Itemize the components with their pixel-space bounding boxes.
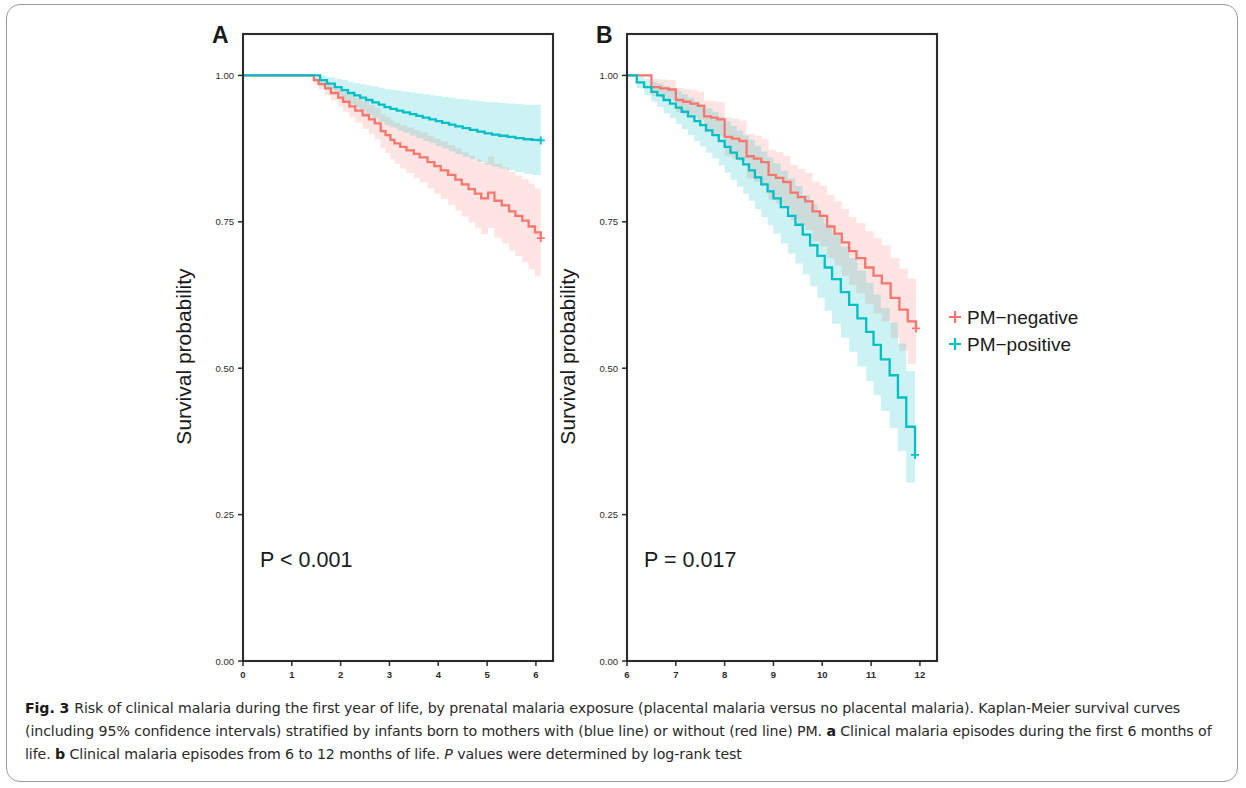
y-tick-label-2: 0.50 (600, 363, 619, 374)
caption-segment-2: a (826, 723, 835, 739)
caption-segment-0: Fig. 3 (25, 700, 74, 716)
caption-segment-6: P (444, 746, 452, 762)
panel-b: B67891011120.000.250.500.751.00Months to… (556, 22, 937, 689)
y-tick-label-2: 0.50 (216, 363, 235, 374)
p-value-panel-a: P < 0.001 (260, 548, 352, 572)
p-value-panel-b: P = 0.017 (644, 548, 736, 572)
x-axis-title-panel-b: Months to malaria (699, 686, 866, 689)
y-tick-label-3: 0.75 (216, 216, 235, 227)
x-tick-label-2: 8 (722, 669, 727, 680)
caption-segment-7: values were determined by log-rank test (453, 746, 742, 762)
y-axis-title-panel-b: Survival probability (556, 268, 579, 445)
caption-segment-4: b (55, 746, 65, 762)
panel-letter-b: B (596, 22, 613, 48)
x-tick-label-4: 4 (436, 669, 442, 680)
legend-label-0: PM−negative (967, 307, 1078, 328)
x-axis-title-panel-a: Months to malaria (315, 686, 482, 689)
y-tick-label-4: 1.00 (216, 70, 235, 81)
legend-marker-0 (949, 311, 961, 323)
y-tick-label-0: 0.00 (600, 656, 619, 667)
x-tick-label-2: 2 (338, 669, 343, 680)
caption-segment-5: Clinical malaria episodes from 6 to 12 m… (65, 746, 444, 762)
legend-label-1: PM−positive (967, 334, 1071, 355)
figure-caption: Fig. 3 Risk of clinical malaria during t… (25, 697, 1225, 766)
x-tick-label-3: 9 (771, 669, 776, 680)
x-tick-label-5: 5 (484, 669, 490, 680)
y-tick-label-1: 0.25 (600, 509, 619, 520)
y-tick-label-1: 0.25 (216, 509, 235, 520)
x-tick-label-6: 12 (915, 669, 926, 680)
legend-marker-1 (949, 338, 961, 350)
x-tick-label-1: 1 (289, 669, 295, 680)
y-axis-title-panel-a: Survival probability (172, 268, 195, 445)
x-tick-label-5: 11 (866, 669, 877, 680)
x-tick-label-4: 10 (817, 669, 828, 680)
ci-band-pmpositive-panel-b (627, 75, 915, 512)
x-tick-label-3: 3 (387, 669, 392, 680)
x-tick-label-6: 6 (533, 669, 538, 680)
figure-frame: A01234560.000.250.500.751.00Months to ma… (6, 4, 1238, 782)
panel-letter-a: A (212, 22, 229, 48)
x-tick-label-0: 0 (240, 669, 245, 680)
kaplan-meier-figure-svg: A01234560.000.250.500.751.00Months to ma… (7, 5, 1239, 689)
figure-plot-area: A01234560.000.250.500.751.00Months to ma… (7, 5, 1239, 689)
legend: PM−negativePM−positive (949, 307, 1078, 355)
ci-band-pmpositive-panel-a (243, 75, 541, 176)
x-tick-label-1: 7 (673, 669, 678, 680)
y-tick-label-3: 0.75 (600, 216, 619, 227)
y-tick-label-4: 1.00 (600, 70, 619, 81)
y-tick-label-0: 0.00 (216, 656, 235, 667)
panel-a: A01234560.000.250.500.751.00Months to ma… (172, 22, 553, 689)
x-tick-label-0: 6 (624, 669, 629, 680)
